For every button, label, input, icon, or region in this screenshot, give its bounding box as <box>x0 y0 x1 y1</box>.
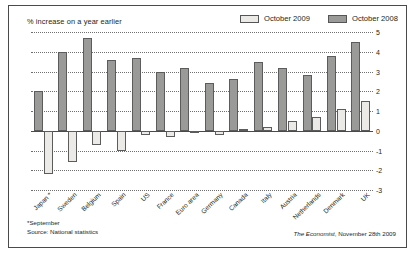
chart-legend: October 2009 October 2008 <box>240 14 398 23</box>
bar-october-2009 <box>190 131 199 133</box>
footnote-asterisk: *September <box>27 219 98 228</box>
bar-october-2009 <box>68 131 77 163</box>
y-axis-tick-label: 0 <box>376 127 380 134</box>
bar-october-2009 <box>141 131 150 135</box>
bar-october-2009 <box>239 129 248 131</box>
y-axis-tick-label: 5 <box>376 29 380 36</box>
y-axis-tick-label: 2 <box>376 88 380 95</box>
legend-item-october-2008: October 2008 <box>328 14 398 23</box>
y-axis-tick-label: 1 <box>376 108 380 115</box>
legend-swatch-october-2008 <box>328 15 347 23</box>
chart-subtitle: % increase on a year earlier <box>27 17 122 26</box>
bar-october-2009 <box>312 117 321 131</box>
bar-group <box>104 32 128 190</box>
bar-october-2008 <box>229 79 238 130</box>
chart-figure: % increase on a year earlier October 200… <box>8 5 407 248</box>
bar-october-2008 <box>351 42 360 131</box>
bar-october-2008 <box>180 68 189 131</box>
bar-group <box>153 32 177 190</box>
bar-group <box>55 32 79 190</box>
bar-october-2009 <box>215 131 224 135</box>
bar-october-2009 <box>117 131 126 151</box>
bar-october-2008 <box>107 60 116 131</box>
bar-october-2009 <box>361 101 370 131</box>
bar-october-2008 <box>34 91 43 131</box>
bar-october-2008 <box>278 68 287 131</box>
bar-october-2008 <box>327 56 336 131</box>
bar-october-2009 <box>263 127 272 131</box>
bar-october-2008 <box>58 52 67 131</box>
bar-october-2008 <box>83 38 92 131</box>
bar-group <box>300 32 324 190</box>
bar-october-2008 <box>156 72 165 131</box>
bar-group <box>251 32 275 190</box>
y-axis-tick-label: -2 <box>376 167 382 174</box>
bar-group <box>129 32 153 190</box>
y-axis-tick-label: -1 <box>376 147 382 154</box>
bar-group <box>275 32 299 190</box>
legend-item-october-2009: October 2009 <box>240 14 310 23</box>
bar-october-2009 <box>337 109 346 131</box>
bar-october-2009 <box>166 131 175 137</box>
bar-group <box>226 32 250 190</box>
y-axis-tick-label: 3 <box>376 68 380 75</box>
bar-series-container <box>31 32 373 190</box>
bar-group <box>80 32 104 190</box>
source-credit: The Economist, November 28th 2009 <box>293 230 396 237</box>
y-axis-tick-label: 4 <box>376 48 380 55</box>
bar-october-2009 <box>92 131 101 145</box>
bar-group <box>349 32 373 190</box>
bar-group <box>202 32 226 190</box>
bar-october-2009 <box>44 131 53 174</box>
chart-footnote: *September Source: National statistics <box>27 219 98 237</box>
source-date: , November 28th 2009 <box>335 230 396 237</box>
source-brand: The Economist <box>293 230 334 237</box>
legend-swatch-october-2009 <box>240 15 259 23</box>
bar-group <box>178 32 202 190</box>
legend-label-october-2009: October 2009 <box>264 14 310 23</box>
legend-label-october-2008: October 2008 <box>352 14 398 23</box>
bar-october-2009 <box>288 121 297 131</box>
bar-october-2008 <box>132 58 141 131</box>
plot-area: 543210-1-2-3 <box>31 32 373 190</box>
bar-october-2008 <box>254 62 263 131</box>
bar-october-2008 <box>205 83 214 130</box>
bar-group <box>324 32 348 190</box>
bar-group <box>31 32 55 190</box>
footnote-source: Source: National statistics <box>27 228 98 237</box>
bar-october-2008 <box>303 75 312 130</box>
